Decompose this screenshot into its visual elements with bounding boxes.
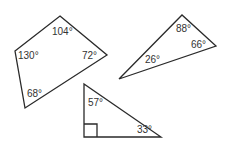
angle-label-top: 57° — [88, 97, 103, 108]
right-triangle: 57° 33° — [84, 84, 161, 137]
right-angle-marker-icon — [84, 124, 97, 137]
angle-label-left: 26° — [145, 54, 160, 65]
angles-diagram: 104° 72° 68° 130° 26° 88° 66° 57° 33° — [0, 0, 230, 148]
angle-label-left: 130° — [18, 50, 39, 61]
angle-label-top: 88° — [176, 23, 191, 34]
quadrilateral: 104° 72° 68° 130° — [15, 16, 107, 108]
angle-label-right: 72° — [82, 50, 97, 61]
angle-label-right: 33° — [137, 124, 152, 135]
angle-label-bottom: 68° — [27, 88, 42, 99]
obtuse-triangle: 26° 88° 66° — [119, 15, 216, 79]
angle-label-top: 104° — [52, 26, 73, 37]
angle-label-right: 66° — [191, 39, 206, 50]
